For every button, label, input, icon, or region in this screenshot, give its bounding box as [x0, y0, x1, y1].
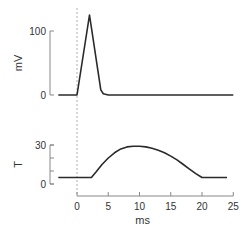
top-y-tick-label: 100 [29, 26, 46, 37]
tension-line [58, 146, 227, 177]
membrane-potential-line [58, 15, 233, 95]
x-tick-label: 20 [196, 201, 208, 212]
top-y-axis-label: mV [12, 54, 24, 71]
x-tick-label: 25 [228, 201, 240, 212]
top-panel: 0100 mV [12, 15, 233, 101]
bottom-panel: 030 T 0510152025 ms [12, 140, 239, 227]
top-y-tick-label: 0 [40, 90, 46, 101]
x-axis-label: ms [135, 214, 150, 226]
bottom-y-tick-label: 30 [35, 140, 47, 151]
bottom-y-tick-label: 0 [40, 179, 46, 190]
bottom-y-axis-label: T [12, 161, 24, 168]
x-tick-label: 5 [105, 201, 111, 212]
x-ticks: 0510152025 [74, 192, 239, 212]
bottom-y-ticks: 030 [35, 140, 47, 190]
top-y-axis [50, 31, 54, 95]
x-tick-label: 10 [134, 201, 146, 212]
top-y-ticks: 0100 [29, 26, 46, 101]
bottom-y-axis [50, 145, 54, 184]
x-tick-label: 0 [74, 201, 80, 212]
x-tick-label: 15 [165, 201, 177, 212]
chart: 0100 mV 030 T 0510152025 ms [0, 0, 252, 235]
